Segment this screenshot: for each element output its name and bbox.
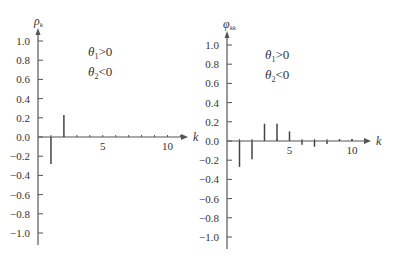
- x-axis-title: k: [376, 134, 382, 148]
- y-tick-label: −0.4: [10, 169, 30, 181]
- y-axis-title: ρk: [33, 14, 44, 29]
- y-tick-label: −0.8: [199, 212, 219, 224]
- y-tick-label: 0.6: [16, 73, 30, 85]
- y-tick-label: 0.8: [16, 54, 30, 66]
- pacf-chart: φkk1.00.80.60.40.20.0−0.2−0.4−0.6−0.8−1.…: [199, 17, 382, 249]
- acf-chart: ρk1.00.80.60.40.20.0−0.2−0.4−0.6−0.8−1.0…: [10, 14, 199, 245]
- y-tick-label: 1.0: [16, 35, 30, 47]
- y-tick-label: 0.2: [205, 116, 219, 128]
- y-tick-label: −0.2: [10, 150, 30, 162]
- y-tick-label: −0.8: [10, 208, 30, 220]
- y-axis-title: φkk: [223, 17, 237, 32]
- x-axis-title: k: [193, 130, 199, 144]
- x-tick-label: 5: [100, 140, 106, 152]
- x-tick-label: 10: [162, 140, 174, 152]
- y-tick-label: 0.2: [16, 112, 30, 124]
- annotation: θ1>0: [265, 47, 289, 64]
- annotation: θ2<0: [265, 67, 289, 84]
- y-tick-label: 0.0: [205, 135, 219, 147]
- y-axis-arrow-icon: [36, 28, 41, 35]
- annotation: θ2<0: [88, 64, 112, 81]
- y-tick-label: 0.4: [205, 97, 219, 109]
- y-tick-label: −0.4: [199, 173, 219, 185]
- acf-pacf-figure: ρk1.00.80.60.40.20.0−0.2−0.4−0.6−0.8−1.0…: [0, 0, 393, 261]
- y-tick-label: −0.2: [199, 154, 219, 166]
- y-tick-label: −1.0: [199, 231, 219, 243]
- x-axis-arrow-icon: [364, 138, 371, 144]
- y-tick-label: 0.0: [16, 131, 30, 143]
- y-tick-label: −0.6: [10, 189, 30, 201]
- annotation: θ1>0: [88, 44, 112, 61]
- y-tick-label: −1.0: [10, 227, 30, 239]
- y-axis-arrow-icon: [225, 31, 230, 38]
- y-tick-label: 0.6: [205, 77, 219, 89]
- y-tick-label: −0.6: [199, 193, 219, 205]
- y-tick-label: 1.0: [205, 39, 219, 51]
- x-axis-arrow-icon: [181, 134, 188, 140]
- y-tick-label: 0.8: [205, 58, 219, 70]
- x-tick-label: 10: [347, 144, 359, 156]
- y-tick-label: 0.4: [16, 93, 30, 105]
- x-tick-label: 5: [287, 144, 293, 156]
